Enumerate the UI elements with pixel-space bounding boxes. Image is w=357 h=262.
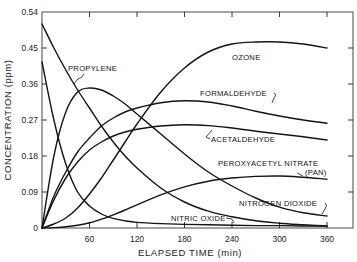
y-tick-labels: 0 0.09 0.18 0.27 0.36 0.45 0.54 bbox=[21, 7, 38, 233]
label-pan-abbrev: (PAN) bbox=[305, 168, 327, 177]
x-axis-ticks bbox=[90, 12, 328, 228]
y-tick-label: 0 bbox=[33, 223, 38, 233]
x-tick-label: 180 bbox=[177, 234, 191, 244]
y-axis-title: CONCENTRATION (ppm) bbox=[2, 59, 13, 180]
annotations: OZONE PROPYLENE FORMALDEHYDE ACETALDEHYD… bbox=[68, 53, 327, 223]
label-pan: PEROXYACETYL NITRATE bbox=[218, 159, 318, 168]
y-tick-label: 0.36 bbox=[21, 79, 38, 89]
line-chart: 0 0.09 0.18 0.27 0.36 0.45 0.54 60 120 1… bbox=[0, 0, 357, 262]
x-tick-label: 120 bbox=[130, 234, 144, 244]
label-formaldehyde: FORMALDEHYDE bbox=[200, 89, 267, 98]
x-tick-label: 360 bbox=[320, 234, 334, 244]
x-tick-labels: 60 120 180 240 300 360 bbox=[85, 234, 335, 244]
label-nitric-oxide: NITRIC OXIDE bbox=[171, 214, 226, 223]
y-tick-label: 0.54 bbox=[21, 7, 38, 17]
formaldehyde-leader-arrow bbox=[272, 93, 276, 103]
pan-leader-arrow bbox=[297, 173, 303, 176]
label-nitrogen-dioxide: NITROGEN DIOXIDE bbox=[239, 199, 317, 208]
no-leader-arrow bbox=[226, 218, 234, 223]
x-tick-label: 300 bbox=[272, 234, 286, 244]
propylene-leader-arrow bbox=[74, 74, 84, 84]
no2-leader-arrow bbox=[322, 203, 327, 214]
label-ozone: OZONE bbox=[232, 53, 261, 62]
label-propylene: PROPYLENE bbox=[68, 64, 117, 73]
y-tick-label: 0.45 bbox=[21, 43, 38, 53]
x-axis-title: ELAPSED TIME (min) bbox=[138, 247, 242, 258]
label-acetaldehyde: ACETALDEHYDE bbox=[211, 135, 275, 144]
y-tick-label: 0.18 bbox=[21, 151, 38, 161]
y-tick-label: 0.09 bbox=[21, 187, 38, 197]
data-curves bbox=[42, 24, 327, 228]
x-tick-label: 60 bbox=[85, 234, 95, 244]
x-tick-label: 240 bbox=[225, 234, 239, 244]
y-tick-label: 0.27 bbox=[21, 115, 38, 125]
